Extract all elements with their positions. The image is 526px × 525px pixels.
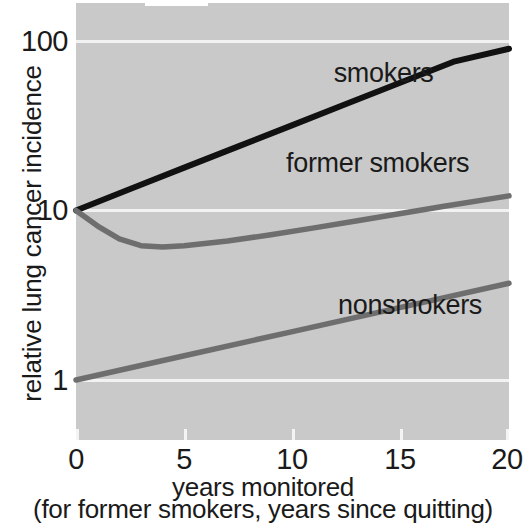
series-label-nonsmokers: nonsmokers — [338, 290, 482, 321]
y-axis-title: relative lung cancer incidence — [17, 34, 48, 434]
series-label-former-smokers: former smokers — [286, 148, 469, 179]
x-axis-subtitle: (for former smokers, years since quittin… — [0, 494, 526, 525]
line-former-smokers — [76, 196, 509, 247]
series-label-smokers: smokers — [334, 58, 434, 89]
line-smokers — [76, 49, 509, 211]
